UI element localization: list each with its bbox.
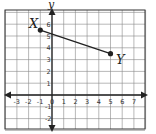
x-tick-label: 5 xyxy=(109,98,113,106)
x-tick-label: 2 xyxy=(73,98,77,106)
x-tick-label: 1 xyxy=(62,98,66,106)
x-tick-label: -3 xyxy=(13,98,19,106)
x-tick-label: 3 xyxy=(85,98,89,106)
y-tick-label: 2 xyxy=(47,68,51,76)
y-tick-labels: 123456-1-2 xyxy=(45,21,51,123)
point-y xyxy=(108,51,113,56)
x-tick-label: 7 xyxy=(132,98,136,106)
point-y-label: Y xyxy=(116,52,126,67)
x-tick-label: -2 xyxy=(25,98,31,106)
y-tick-label: 6 xyxy=(47,21,51,29)
y-tick-label: 4 xyxy=(47,44,51,52)
grid-border xyxy=(5,10,145,129)
coordinate-plane: y -3-2-101234567 123456-1-2 X Y xyxy=(0,0,156,134)
x-tick-label: -1 xyxy=(37,98,43,106)
point-x-label: X xyxy=(28,16,39,31)
y-tick-label: 1 xyxy=(47,80,51,88)
grid xyxy=(5,10,146,130)
x-tick-labels: -3-2-101234567 xyxy=(13,98,136,106)
y-tick-label: -1 xyxy=(45,103,51,111)
x-tick-label: 6 xyxy=(120,98,124,106)
y-tick-label: -2 xyxy=(45,115,51,123)
y-tick-label: 3 xyxy=(47,56,51,64)
point-x xyxy=(38,28,43,33)
y-axis-label: y xyxy=(47,0,55,11)
x-tick-label: 4 xyxy=(97,98,101,106)
